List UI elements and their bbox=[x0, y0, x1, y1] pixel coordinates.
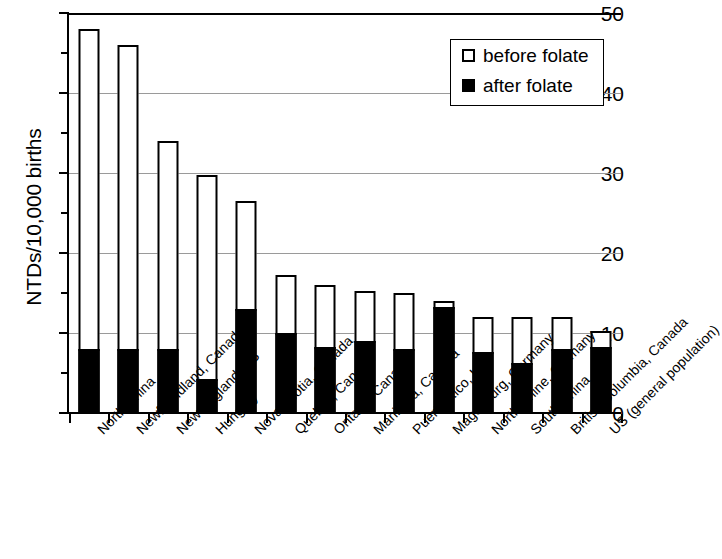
bar-after-folate bbox=[78, 349, 99, 413]
legend-item-before-folate: before folate bbox=[462, 46, 589, 65]
x-axis-line bbox=[59, 412, 621, 414]
bar-group bbox=[266, 13, 305, 413]
x-tick-mark bbox=[69, 414, 71, 423]
bar-group bbox=[69, 13, 108, 413]
legend-item-after-folate: after folate bbox=[462, 76, 573, 95]
legend-label-before-folate: before folate bbox=[483, 46, 589, 65]
chart-legend: before folate after folate bbox=[450, 39, 604, 106]
bar-group bbox=[384, 13, 423, 413]
legend-swatch-after-folate-icon bbox=[462, 79, 475, 92]
legend-label-after-folate: after folate bbox=[483, 76, 573, 95]
y-axis-title: NTDs/10,000 births bbox=[22, 97, 46, 337]
legend-swatch-before-folate-icon bbox=[462, 49, 475, 62]
bar-group bbox=[108, 13, 147, 413]
bar-group bbox=[148, 13, 187, 413]
